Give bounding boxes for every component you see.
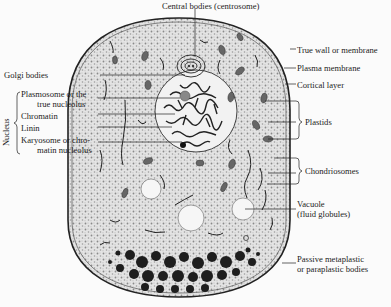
label-true-wall: True wall or membrane (297, 45, 378, 55)
label-vacuole-2: (fluid globules) (297, 209, 350, 219)
label-plastids: Plastids (305, 117, 332, 127)
label-vacuole-1: Vacuole (297, 199, 325, 209)
label-chondriosomes: Chondriosomes (305, 166, 359, 176)
label-cortical-layer: Cortical layer (297, 80, 344, 90)
vacuole (141, 179, 161, 199)
plasmosome (180, 91, 190, 101)
label-passive-1: Passive metaplastic (297, 254, 364, 264)
vacuole (178, 205, 204, 231)
karyosome (180, 142, 186, 148)
nucleus (155, 70, 237, 152)
label-chromatin: Chromatin (21, 111, 58, 121)
label-karyosome-2: matin nucleolus (37, 145, 92, 155)
label-golgi-bodies: Golgi bodies (4, 70, 48, 80)
label-plasmosome-2: true nucleolus (37, 99, 85, 109)
label-plasma-membrane: Plasma membrane (297, 63, 360, 73)
label-karyosome-1: Karyosome or chro- (21, 135, 90, 145)
label-passive-2: or paraplastic bodies (297, 264, 368, 274)
cell-diagram: Central bodies (centrosome) Golgi bodies… (0, 0, 391, 307)
label-central-bodies: Central bodies (centrosome) (162, 1, 259, 11)
label-nucleus: Nucleus (2, 119, 11, 146)
label-linin: Linin (21, 123, 40, 133)
label-plasmosome-1: Plasmosome or the (21, 89, 86, 99)
